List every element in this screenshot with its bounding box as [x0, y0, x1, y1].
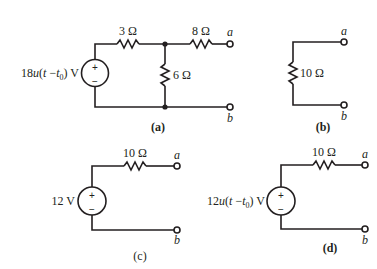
plus-sign: + [92, 62, 98, 73]
resistor-3ohm [117, 40, 139, 48]
caption-d: (d) [323, 241, 338, 255]
terminal-label-b: b [362, 233, 368, 247]
source-label: 12 V [52, 194, 76, 208]
caption-a: (a) [151, 120, 165, 134]
terminal-a [341, 39, 347, 45]
circuit-a: + − 3 Ω 8 Ω 6 Ω a b 18u(t −t0) V (a) [21, 24, 233, 134]
resistor-label: 3 Ω [119, 24, 137, 38]
terminal-label-b: b [341, 109, 347, 123]
terminal-b [227, 104, 233, 110]
terminal-label-b: b [227, 111, 233, 125]
resistor-10ohm [124, 162, 146, 170]
wire [92, 166, 124, 187]
caption-c: (c) [133, 249, 146, 263]
terminal-a [227, 41, 233, 47]
circuit-c: + − 10 Ω a b 12 V (c) [52, 146, 180, 263]
resistor-10ohm [313, 161, 335, 169]
resistor-6ohm [161, 64, 169, 86]
source-label: 12u(t −t0) V [207, 194, 265, 210]
caption-b: (b) [316, 120, 331, 134]
terminal-label-a: a [174, 148, 180, 162]
wire [281, 165, 313, 187]
wire [95, 44, 117, 60]
terminal-label-a: a [227, 25, 233, 39]
minus-sign: − [92, 76, 98, 87]
terminal-label-a: a [362, 147, 368, 161]
wire [293, 42, 341, 62]
plus-sign: + [278, 190, 284, 201]
minus-sign: − [278, 204, 284, 215]
circuit-b: 10 Ω a b (b) [289, 24, 347, 134]
node-dot [162, 104, 167, 109]
resistor-8ohm [190, 40, 212, 48]
wire [293, 84, 341, 105]
resistor-label: 10 Ω [123, 146, 147, 160]
terminal-a [362, 162, 368, 168]
node-dot [162, 41, 167, 46]
resistor-label: 10 Ω [312, 145, 336, 159]
resistor-10ohm [289, 62, 297, 84]
terminal-b [341, 102, 347, 108]
wire [92, 215, 174, 230]
plus-sign: + [89, 190, 95, 201]
circuit-figure: + − 3 Ω 8 Ω 6 Ω a b 18u(t −t0) V (a) 10 … [0, 0, 377, 269]
terminal-b [362, 226, 368, 232]
minus-sign: − [89, 204, 95, 215]
terminal-label-b: b [174, 233, 180, 247]
wire [281, 215, 362, 229]
resistor-label: 6 Ω [173, 68, 191, 82]
source-label: 18u(t −t0) V [21, 66, 79, 82]
wire [95, 87, 227, 107]
resistor-label: 10 Ω [300, 66, 324, 80]
terminal-label-a: a [341, 24, 347, 38]
terminal-a [174, 163, 180, 169]
resistor-label: 8 Ω [192, 24, 210, 38]
circuit-d: + − 10 Ω a b 12u(t −t0) V (d) [207, 145, 368, 255]
